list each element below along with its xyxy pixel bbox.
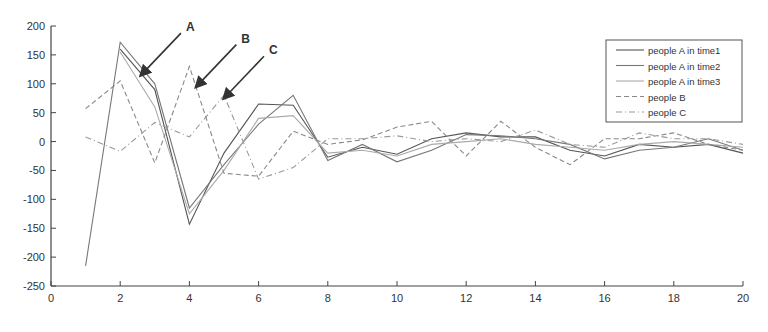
x-tick-label: 18 bbox=[668, 292, 680, 304]
x-tick-label: 6 bbox=[256, 292, 262, 304]
x-tick-label: 20 bbox=[737, 292, 749, 304]
y-tick-label: -200 bbox=[23, 251, 45, 263]
y-tick-label: 50 bbox=[33, 107, 45, 119]
line-chart: 200150100500-50-100-150-200-250024681012… bbox=[0, 0, 768, 332]
legend-label: people A in time3 bbox=[648, 76, 720, 87]
x-tick-label: 16 bbox=[598, 292, 610, 304]
legend-label: people A in time2 bbox=[648, 61, 720, 72]
y-tick-label: -100 bbox=[23, 193, 45, 205]
x-tick-label: 0 bbox=[48, 292, 54, 304]
y-tick-label: 150 bbox=[27, 49, 45, 61]
x-tick-label: 8 bbox=[325, 292, 331, 304]
x-tick-label: 2 bbox=[117, 292, 123, 304]
annotation-arrow bbox=[224, 56, 264, 98]
y-tick-label: -150 bbox=[23, 222, 45, 234]
y-tick-label: 200 bbox=[27, 20, 45, 32]
x-tick-label: 12 bbox=[460, 292, 472, 304]
legend-label: people C bbox=[648, 107, 686, 118]
annotation-arrow bbox=[196, 45, 236, 87]
legend-label: people A in time1 bbox=[648, 45, 720, 56]
y-tick-label: -50 bbox=[29, 164, 45, 176]
x-tick-label: 4 bbox=[186, 292, 192, 304]
chart-svg: 200150100500-50-100-150-200-250024681012… bbox=[0, 0, 768, 332]
annotation-label: B bbox=[241, 32, 250, 46]
x-tick-label: 10 bbox=[391, 292, 403, 304]
y-tick-label: 100 bbox=[27, 78, 45, 90]
y-tick-label: 0 bbox=[39, 136, 45, 148]
x-tick-label: 14 bbox=[529, 292, 541, 304]
annotation-label: A bbox=[186, 20, 195, 34]
annotation-arrow bbox=[141, 33, 181, 75]
annotation-label: C bbox=[269, 43, 278, 57]
y-tick-label: -250 bbox=[23, 280, 45, 292]
legend-label: people B bbox=[648, 92, 686, 103]
